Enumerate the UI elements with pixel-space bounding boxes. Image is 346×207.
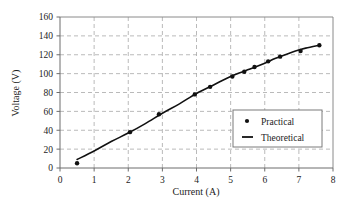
data-point-marker [128,130,132,134]
x-axis-title: Current (A) [173,186,220,198]
x-tick-label: 8 [331,175,336,185]
y-tick-label: 0 [48,163,53,173]
voltage-current-chart: 020406080100120140160 012345678 Practica… [0,0,346,207]
data-point-marker [75,161,79,165]
legend-label-theoretical: Theoretical [261,133,305,143]
data-point-marker [193,92,197,96]
y-tick-label: 140 [39,31,54,41]
data-point-marker [157,112,161,116]
data-point-marker [242,70,246,74]
data-point-marker [230,74,234,78]
x-tick-label: 6 [262,175,267,185]
data-point-marker [266,59,270,63]
y-tick-label: 40 [44,126,54,136]
data-point-marker [298,49,302,53]
y-tick-label: 20 [44,145,54,155]
legend-label-practical: Practical [261,117,295,127]
data-point-marker [278,54,282,58]
y-tick-label: 120 [39,50,54,60]
x-axis-ticks: 012345678 [58,168,336,185]
x-tick-label: 3 [160,175,165,185]
dot-marker-icon [245,119,249,123]
y-axis-title: Voltage (V) [10,70,22,117]
y-axis-ticks: 020406080100120140160 [39,12,60,173]
x-tick-label: 5 [228,175,233,185]
x-tick-label: 2 [126,175,131,185]
chart-legend: Practical Theoretical [233,110,322,147]
x-tick-label: 4 [194,175,199,185]
x-tick-label: 0 [58,175,63,185]
data-point-marker [317,43,321,47]
data-point-marker [208,85,212,89]
y-tick-label: 160 [39,12,54,22]
x-tick-label: 7 [297,175,302,185]
chart-figure: 020406080100120140160 012345678 Practica… [0,0,346,207]
data-point-marker [252,65,256,69]
y-tick-label: 100 [39,69,54,79]
x-tick-label: 1 [92,175,97,185]
y-tick-label: 60 [44,107,54,117]
y-tick-label: 80 [44,88,54,98]
